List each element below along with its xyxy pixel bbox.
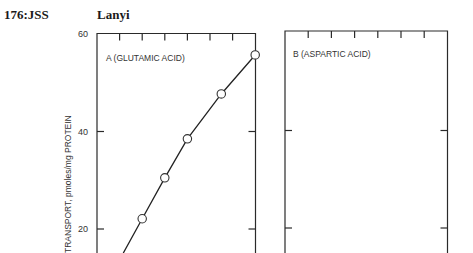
data-point-marker (138, 215, 146, 223)
panel-a-right-ticks (249, 132, 256, 230)
panel-a-top-ticks (120, 34, 233, 41)
panel-a-y-tick-labels: 204060 (78, 29, 88, 234)
data-point-marker (161, 174, 169, 182)
y-tick-label: 20 (78, 224, 88, 234)
panel-b-title: B (ASPARTIC ACID) (293, 49, 371, 59)
panel-a: 204060 A (GLUTAMIC ACID) (78, 29, 259, 253)
panel-b-top-ticks (308, 31, 424, 38)
y-tick-label: 60 (78, 29, 88, 39)
panel-b: B (ASPARTIC ACID) (285, 31, 448, 253)
data-point-marker (251, 51, 259, 59)
panel-a-left-ticks (97, 132, 104, 230)
y-tick-label: 40 (78, 127, 88, 137)
panel-b-right-ticks (441, 131, 448, 229)
data-point-marker (183, 135, 191, 143)
panel-a-title: A (GLUTAMIC ACID) (106, 53, 185, 63)
glutamic-acid-series (123, 51, 259, 253)
figure: TRANSPORT, pmoles/mg PROTEIN 204060 A (G… (0, 0, 473, 253)
panel-b-left-ticks (285, 131, 292, 229)
y-axis-label: TRANSPORT, pmoles/mg PROTEIN (63, 115, 73, 253)
data-point-marker (217, 90, 225, 98)
